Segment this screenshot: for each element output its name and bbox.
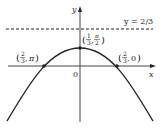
- svg-text:): ): [101, 34, 105, 45]
- svg-text:,: ,: [91, 36, 94, 45]
- right-point-label: ( 2 3 , 0 ): [118, 50, 141, 64]
- polar-graph: y = 2/3 y x 0 ( 1 3 , π 2 ) ( 2 3 , π ) …: [0, 0, 163, 128]
- y-axis-label: y: [71, 5, 77, 14]
- svg-text:): ): [35, 52, 39, 63]
- svg-text:,: ,: [25, 54, 28, 63]
- svg-text:(: (: [16, 52, 20, 63]
- svg-text:π: π: [94, 32, 100, 39]
- svg-text:0: 0: [131, 54, 136, 63]
- svg-text:): ): [137, 52, 141, 63]
- peak-point: [78, 46, 82, 50]
- svg-text:2: 2: [95, 39, 99, 46]
- svg-text:,: ,: [127, 54, 130, 63]
- origin-label: 0: [73, 70, 78, 79]
- x-axis-label: x: [149, 70, 154, 79]
- svg-text:π: π: [28, 54, 35, 63]
- x-axis-arrow-icon: [150, 64, 156, 68]
- y-axis-arrow-icon: [78, 6, 82, 12]
- left-point-label: ( 2 3 , π ): [16, 50, 39, 64]
- left-intercept-point: [42, 64, 46, 68]
- svg-text:(: (: [82, 34, 86, 45]
- right-intercept-point: [115, 64, 119, 68]
- peak-label: ( 1 3 , π 2 ): [82, 32, 105, 46]
- svg-text:(: (: [118, 52, 122, 63]
- asymptote-label: y = 2/3: [123, 17, 153, 26]
